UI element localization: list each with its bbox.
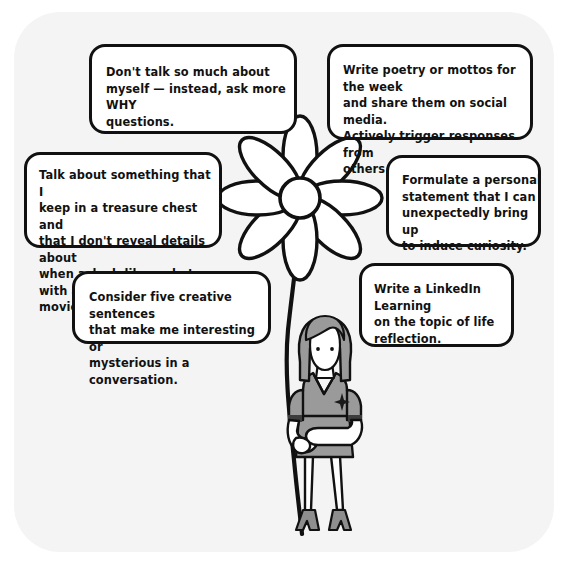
leg-right bbox=[331, 456, 343, 510]
note-text: Don't talk so much about myself — instea… bbox=[106, 64, 292, 130]
eye-left bbox=[316, 347, 320, 351]
note-linkedin-learning[interactable]: Write a LinkedIn Learning on the topic o… bbox=[359, 263, 514, 347]
note-text: Consider five creative sentences that ma… bbox=[89, 289, 269, 388]
note-personal-statement[interactable]: Formulate a personal statement that I ca… bbox=[386, 155, 541, 247]
note-creative-sentences[interactable]: Consider five creative sentences that ma… bbox=[72, 271, 271, 344]
note-poetry-mottos[interactable]: Write poetry or mottos for the week and … bbox=[327, 44, 533, 140]
note-text: Write a LinkedIn Learning on the topic o… bbox=[374, 281, 514, 347]
note-why-questions[interactable]: Don't talk so much about myself — instea… bbox=[89, 44, 297, 134]
note-text: Formulate a personal statement that I ca… bbox=[402, 172, 542, 255]
flower-center bbox=[280, 178, 320, 218]
note-treasure-chest[interactable]: Talk about something that I keep in a tr… bbox=[24, 152, 222, 248]
sketch-canvas: Don't talk so much about myself — instea… bbox=[0, 0, 568, 564]
hand bbox=[293, 438, 310, 454]
leg-left bbox=[305, 456, 313, 512]
shoe-right bbox=[329, 510, 351, 530]
eye-right bbox=[330, 347, 334, 351]
